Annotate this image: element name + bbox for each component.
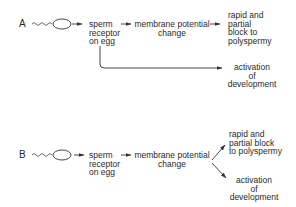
arrow-b-membrane-to-activation [212,163,226,178]
arrow-b-membrane-to-block [212,145,225,160]
panel-b-activation-label: activation of development [229,176,279,202]
panel-b-letter: B [19,149,26,160]
arrow-a-receptor-to-activation [100,46,222,68]
panel-b-membrane-label: membrane potential change [134,151,210,168]
panel-a-block-label: rapid and partial block to polyspermy [228,11,271,45]
panel-a-membrane-label: membrane potential change [134,20,210,37]
panel-b-block-label: rapid and partial block to polyspermy [229,130,282,156]
panel-b-receptor-label: sperm receptor on egg [89,151,120,177]
panel-a-receptor-label: sperm receptor on egg [89,20,120,46]
panel-b-sperm-icon [32,150,71,160]
panel-a-sperm-icon [32,19,71,29]
panel-a-activation-label: activation of development [226,63,278,89]
panel-a-letter: A [19,18,26,29]
